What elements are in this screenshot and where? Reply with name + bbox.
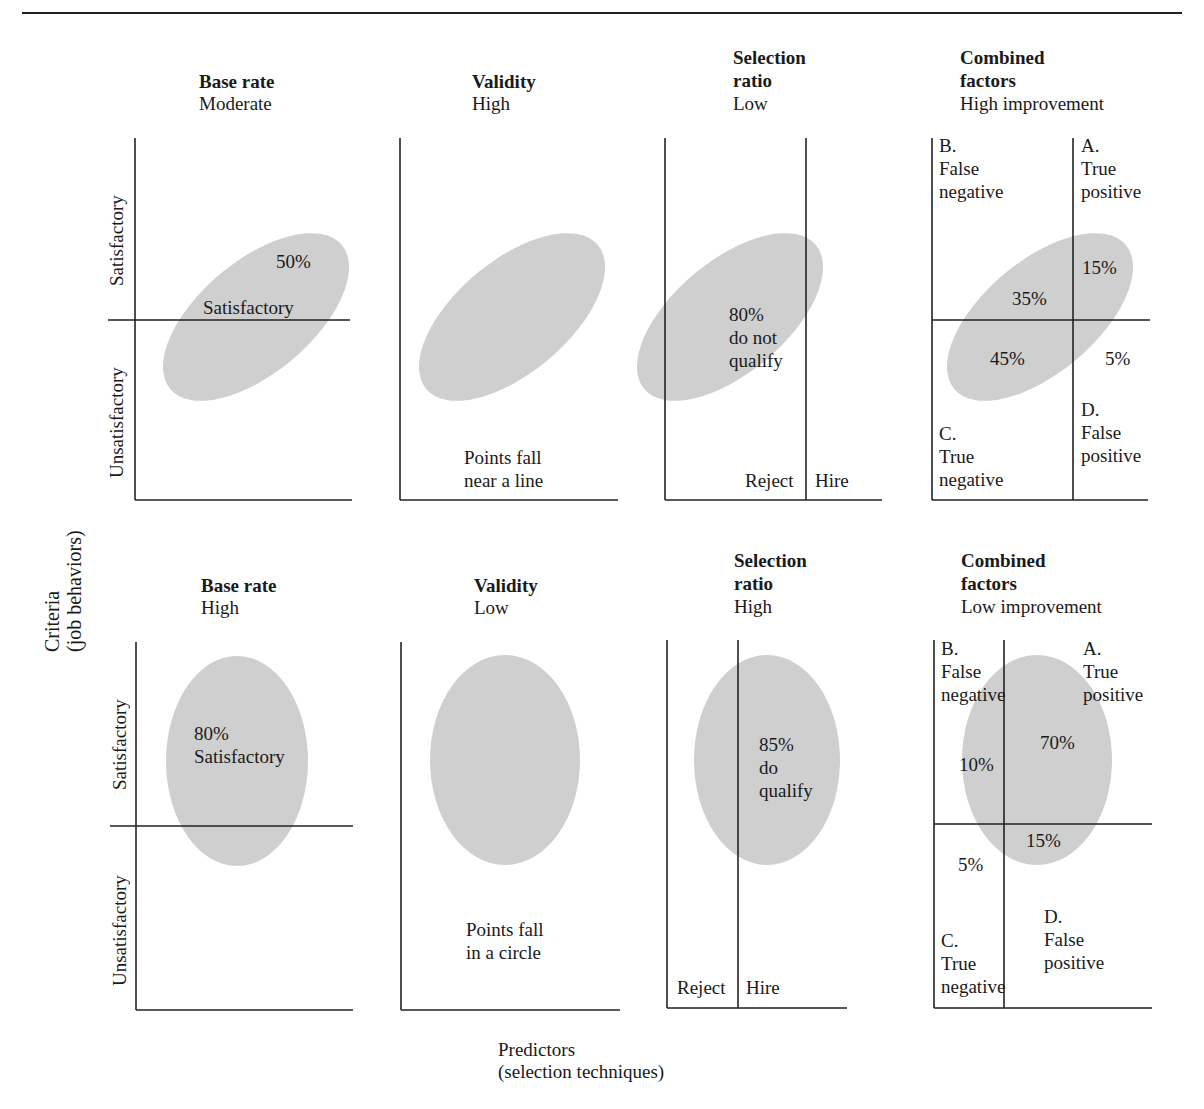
quadrant-c-letter: C.: [941, 929, 958, 952]
x-axis-title-line2: (selection techniques): [498, 1060, 664, 1083]
panel-r1p3-reject-label: Reject: [745, 469, 794, 492]
panel-r1p2-subtitle: High: [472, 92, 510, 115]
panel-r2p4-title-line1: Combined: [961, 549, 1045, 572]
panel-r1p1-subtitle: Moderate: [199, 92, 272, 115]
panel-r2p2-note-line2: in a circle: [466, 941, 541, 964]
quadrant-d-pct: 5%: [1105, 347, 1130, 370]
y-axis-title: Criteria (job behaviors): [41, 530, 85, 652]
panel-r2p3-hire-label: Hire: [746, 976, 780, 999]
panel-r2p1-subtitle: High: [201, 596, 239, 619]
quadrant-c-line2: negative: [941, 975, 1005, 998]
panel-r1p3-pct: 80%: [729, 303, 764, 326]
quadrant-b-letter: B.: [941, 637, 958, 660]
panel-r1p3-title-line1: Selection: [733, 46, 806, 69]
panel-r2p1-graphics: [110, 642, 353, 1010]
quadrant-c-line2: negative: [939, 468, 1003, 491]
row2-satisfactory-label: Satisfactory: [108, 699, 131, 790]
quadrant-b-letter: B.: [939, 134, 956, 157]
quadrant-b-line2: negative: [939, 180, 1003, 203]
x-axis-title-line1: Predictors: [498, 1038, 575, 1061]
quadrant-a-line2: positive: [1083, 683, 1143, 706]
panel-r2p3-subtitle: High: [734, 595, 772, 618]
panel-r2p3-reject-label: Reject: [677, 976, 726, 999]
panel-r2p3-title-line2: ratio: [734, 572, 773, 595]
quadrant-c-line1: True: [941, 952, 976, 975]
scatter-ellipse: [390, 202, 634, 432]
panel-r1p4-title-line2: factors: [960, 69, 1016, 92]
panel-r1p2-note-line1: Points fall: [464, 446, 542, 469]
quadrant-d-line2: positive: [1044, 951, 1104, 974]
panel-r2p2-title: Validity: [474, 574, 538, 597]
row2-unsatisfactory-label: Unsatisfactory: [108, 875, 131, 986]
quadrant-b-pct: 10%: [959, 753, 994, 776]
panel-r1p1-desc: Satisfactory: [203, 296, 294, 319]
panel-r1p3-hire-label: Hire: [815, 469, 849, 492]
quadrant-d-pct: 15%: [1026, 829, 1061, 852]
quadrant-c-pct: 5%: [958, 853, 983, 876]
row1-unsatisfactory-label: Unsatisfactory: [105, 367, 128, 478]
quadrant-d-line2: positive: [1081, 444, 1141, 467]
panel-r1p2-note-line2: near a line: [464, 469, 543, 492]
panel-r1p3-title-line2: ratio: [733, 69, 772, 92]
panel-r2p4-subtitle: Low improvement: [961, 595, 1102, 618]
quadrant-a-line1: True: [1083, 660, 1118, 683]
panel-r2p4-title-line2: factors: [961, 572, 1017, 595]
scatter-ellipse: [430, 655, 580, 865]
scatter-ellipse: [918, 202, 1162, 432]
panel-r1p3-label-line1: do not: [729, 326, 777, 349]
quadrant-a-line2: positive: [1081, 180, 1141, 203]
quadrant-a-letter: A.: [1081, 134, 1099, 157]
quadrant-a-line1: True: [1081, 157, 1116, 180]
quadrant-b-line2: negative: [941, 683, 1005, 706]
quadrant-d-letter: D.: [1081, 398, 1099, 421]
panel-r2p2-note-line1: Points fall: [466, 918, 544, 941]
quadrant-b-pct: 35%: [1012, 287, 1047, 310]
panel-r2p1-title: Base rate: [201, 574, 276, 597]
quadrant-c-line1: True: [939, 445, 974, 468]
panel-r2p1-pct: 80%: [194, 722, 229, 745]
panel-r1p2-title: Validity: [472, 70, 536, 93]
quadrant-d-line1: False: [1044, 928, 1084, 951]
panel-r2p2-subtitle: Low: [474, 596, 509, 619]
panel-r2p3-label-line1: do: [759, 756, 778, 779]
quadrant-b-line1: False: [939, 157, 979, 180]
panel-r1p4-subtitle: High improvement: [960, 92, 1104, 115]
panel-r2p3-title-line1: Selection: [734, 549, 807, 572]
quadrant-a-letter: A.: [1083, 637, 1101, 660]
panel-r1p4-title-line1: Combined: [960, 46, 1044, 69]
quadrant-d-letter: D.: [1044, 905, 1062, 928]
panel-r1p1-graphics: [108, 138, 378, 500]
quadrant-a-pct: 70%: [1040, 731, 1075, 754]
row1-satisfactory-label: Satisfactory: [105, 195, 128, 286]
panel-r1p1-pct: 50%: [276, 250, 311, 273]
y-axis-title-line2: (job behaviors): [63, 530, 85, 652]
y-axis-title-line1: Criteria: [41, 530, 63, 652]
panel-r2p3-pct: 85%: [759, 733, 794, 756]
panel-r2p3-graphics: [667, 640, 847, 1008]
quadrant-c-letter: C.: [939, 422, 956, 445]
panel-r2p1-desc: Satisfactory: [194, 745, 285, 768]
quadrant-a-pct: 15%: [1082, 256, 1117, 279]
panel-r1p3-subtitle: Low: [733, 92, 768, 115]
panel-r1p3-label-line2: qualify: [729, 349, 783, 372]
quadrant-b-line1: False: [941, 660, 981, 683]
panel-r2p3-label-line2: qualify: [759, 779, 813, 802]
panel-r1p1-title: Base rate: [199, 70, 274, 93]
quadrant-c-pct: 45%: [990, 347, 1025, 370]
quadrant-d-line1: False: [1081, 421, 1121, 444]
